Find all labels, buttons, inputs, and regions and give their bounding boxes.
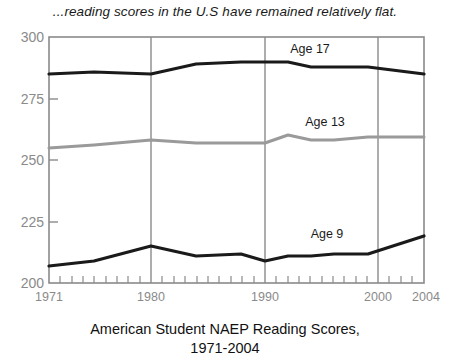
ytick-label-225: 225 <box>21 214 45 230</box>
plot-container: 300 275 250 225 200 1971 1980 1990 2000 … <box>0 0 450 320</box>
data-series-group <box>49 62 424 266</box>
series-line-age-13 <box>49 135 424 148</box>
gridlines-vertical <box>151 37 378 283</box>
xtick-label-1990: 1990 <box>251 290 279 304</box>
x-axis-ticks <box>60 276 412 283</box>
chart-figure: ...reading scores in the U.S have remain… <box>0 0 450 364</box>
series-line-age-17 <box>49 62 424 74</box>
x-axis-labels: 1971 1980 1990 2000 2004 <box>35 290 440 304</box>
caption-line-1: American Student NAEP Reading Scores, <box>90 321 360 337</box>
line-chart-svg: 300 275 250 225 200 1971 1980 1990 2000 … <box>0 0 450 320</box>
xtick-label-2004: 2004 <box>412 290 440 304</box>
xtick-label-1971: 1971 <box>35 290 63 304</box>
xtick-label-2000: 2000 <box>364 290 392 304</box>
xtick-label-1980: 1980 <box>137 290 165 304</box>
series-label-age-17: Age 17 <box>290 42 330 56</box>
ytick-label-275: 275 <box>21 91 45 107</box>
chart-caption: American Student NAEP Reading Scores, 19… <box>0 320 450 358</box>
caption-line-2: 1971-2004 <box>0 339 450 358</box>
series-label-age-9: Age 9 <box>311 227 344 241</box>
ytick-label-200: 200 <box>21 275 45 291</box>
series-label-age-13: Age 13 <box>305 115 345 129</box>
ytick-label-250: 250 <box>21 152 45 168</box>
ytick-label-300: 300 <box>21 29 45 45</box>
y-axis-labels: 300 275 250 225 200 <box>21 29 45 291</box>
series-line-age-9 <box>49 236 424 266</box>
y-axis-ticks <box>49 99 58 222</box>
